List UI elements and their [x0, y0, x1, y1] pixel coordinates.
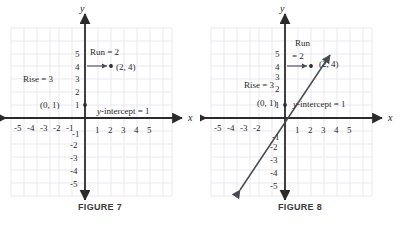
point-0-1	[83, 103, 87, 107]
point-2-4	[109, 64, 113, 68]
y-tick-2: 2	[75, 87, 80, 97]
x-tick--3: -3	[40, 123, 48, 133]
y-tick--5: -5	[70, 179, 78, 189]
figure-8-caption: FIGURE 8	[200, 202, 400, 212]
figure-7-plot: x y -5 -4 -3 -2 -1 1 2 3 4 5 5 4 3 2 1 -…	[0, 0, 200, 200]
x-tick-5: 5	[347, 125, 352, 135]
y-intercept-rest: -intercept = 1	[297, 99, 346, 109]
x-tick-2: 2	[308, 125, 313, 135]
y-tick--3: -3	[270, 155, 278, 165]
figure-7: x y -5 -4 -3 -2 -1 1 2 3 4 5 5 4 3 2 1 -…	[0, 0, 200, 226]
figure-8: x y -5 -4 -3 -2 1 2 3 4 5 5 4 3 2 1 -1 -…	[200, 0, 400, 226]
x-tick-1: 1	[295, 125, 300, 135]
y-tick-3: 3	[75, 74, 80, 84]
y-axis-label: y	[279, 3, 285, 14]
point-0-1	[283, 103, 287, 107]
rise-label: Rise = 3	[23, 74, 54, 84]
y-tick--2: -2	[70, 140, 78, 150]
y-tick-4: 4	[275, 62, 280, 72]
y-tick-3: 3	[275, 72, 280, 82]
point-0-1-label: (0, 1)	[40, 100, 60, 110]
y-tick-4: 4	[75, 62, 80, 72]
point-0-1-label: (0, 1)	[257, 98, 277, 108]
y-tick-1: 1	[75, 100, 80, 110]
x-tick-1: 1	[95, 125, 100, 135]
x-tick-3: 3	[321, 125, 326, 135]
point-2-4	[309, 64, 313, 68]
x-tick-5: 5	[147, 125, 152, 135]
x-axis-label: x	[187, 112, 193, 123]
run-label: Run = 2	[90, 47, 119, 57]
y-tick--1: -1	[72, 129, 80, 139]
x-tick--4: -4	[27, 123, 35, 133]
x-tick-4: 4	[334, 125, 339, 135]
y-axis-label: y	[79, 3, 85, 14]
x-tick--2: -2	[53, 123, 61, 133]
figure-7-caption: FIGURE 7	[0, 202, 200, 212]
y-tick-5: 5	[275, 49, 280, 59]
x-tick-4: 4	[134, 125, 139, 135]
y-tick--2: -2	[270, 142, 278, 152]
point-2-4-label: (2, 4)	[116, 62, 136, 72]
run-label-line2: = 2	[292, 51, 304, 61]
y-tick--4: -4	[70, 166, 78, 176]
x-tick--3: -3	[240, 123, 248, 133]
y-intercept-label: y-intercept = 1	[96, 106, 150, 116]
y-tick--3: -3	[70, 153, 78, 163]
x-tick--2: -2	[253, 123, 261, 133]
figure-8-plot: x y -5 -4 -3 -2 1 2 3 4 5 5 4 3 2 1 -1 -…	[200, 0, 400, 200]
point-2-4-label: (2, 4)	[319, 59, 339, 69]
axes	[4, 14, 182, 200]
x-tick-2: 2	[108, 125, 113, 135]
rise-label: Rise = 3	[244, 80, 275, 90]
x-axis-label: x	[387, 112, 393, 123]
y-tick--4: -4	[270, 168, 278, 178]
x-tick--4: -4	[227, 123, 235, 133]
figure-pair: x y -5 -4 -3 -2 -1 1 2 3 4 5 5 4 3 2 1 -…	[0, 0, 400, 226]
y-tick--1: -1	[272, 132, 280, 142]
y-intercept-label: y-intercept = 1	[292, 99, 346, 109]
y-intercept-rest: -intercept = 1	[101, 106, 150, 116]
y-tick-2: 2	[275, 84, 280, 94]
x-tick--5: -5	[14, 123, 22, 133]
x-tick-3: 3	[121, 125, 126, 135]
x-tick--5: -5	[214, 123, 222, 133]
y-tick-5: 5	[75, 49, 80, 59]
y-tick--5: -5	[270, 181, 278, 191]
run-label-line1: Run	[295, 38, 311, 48]
